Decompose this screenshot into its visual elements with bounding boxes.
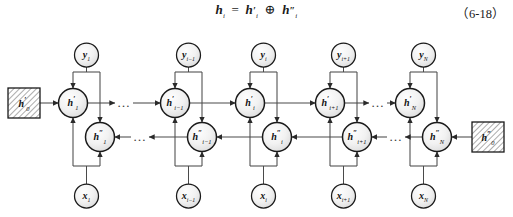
node-output-i-1 — [177, 43, 201, 67]
ellipsis-backward-gap-1: … — [133, 129, 147, 144]
node-input-i-1 — [177, 184, 201, 208]
node-output-i+1 — [332, 43, 356, 67]
init-state-h0-forward: h′0 — [8, 88, 40, 118]
figure-root: hi = h′i ⊕ h″i （6-18） — [0, 0, 513, 217]
ellipsis-backward-gap-2: … — [389, 129, 403, 144]
init-state-h0-backward: h″0 — [472, 122, 504, 152]
ellipsis-forward-gap-1: … — [117, 95, 131, 110]
diagram-nodes: h′1h″1y1x1h′i−1h″i−1yi−1xi−1h′ih″iyixih′… — [59, 43, 452, 208]
node-input-i+1 — [332, 184, 356, 208]
diagram-canvas: h′0h″0 h′1h″1y1x1h′i−1h″i−1yi−1xi−1h′ih″… — [0, 0, 513, 217]
ellipsis-forward-gap-2: … — [371, 95, 385, 110]
